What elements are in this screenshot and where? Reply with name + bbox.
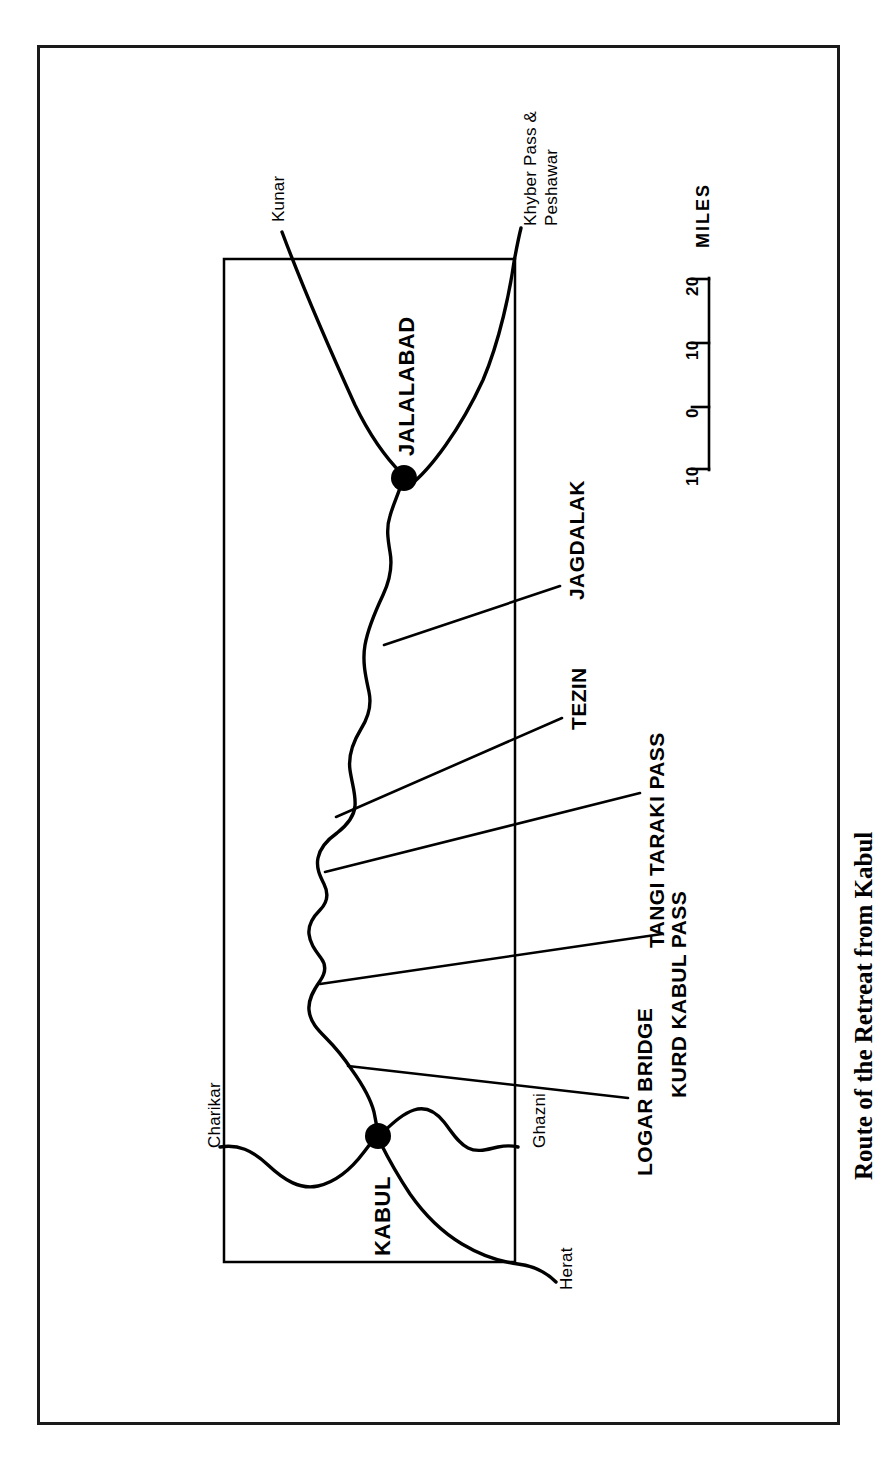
scale-unit-label: MILES (694, 183, 712, 248)
scale-label-0: 0 (684, 408, 701, 418)
figure-caption: Route of the Retreat from Kabul (850, 832, 878, 1180)
label-kunar: Kunar (270, 176, 287, 222)
label-feature-jagdalak: JAGDALAK (566, 480, 587, 600)
label-feature-tezin: TEZIN (568, 667, 589, 730)
label-khyber-pass-line2: Peshawar (541, 111, 562, 226)
scale-label-20: 20 (684, 276, 701, 296)
label-feature-logar-bridge: LOGAR BRIDGE (634, 1008, 655, 1176)
outer-frame-border (37, 45, 840, 1425)
scale-label-10-lower: 10 (684, 466, 701, 486)
label-feature-kurd-kabul-pass: KURD KABUL PASS (668, 891, 689, 1098)
figure-caption-clip: Route of the Retreat from Kabul (846, 0, 879, 1460)
label-city-jalalabad: JALALABAD (396, 316, 418, 456)
label-herat: Herat (558, 1247, 575, 1290)
label-khyber-pass-peshawar: Khyber Pass & Peshawar (520, 111, 563, 226)
label-khyber-pass-line1: Khyber Pass & (520, 111, 541, 226)
figure-page: Kunar Khyber Pass & Peshawar Charikar Gh… (0, 0, 879, 1460)
label-city-kabul: KABUL (372, 1176, 394, 1256)
scale-label-10-upper: 10 (684, 340, 701, 360)
label-feature-tangi-taraki-pass: TANGI TARAKI PASS (646, 732, 667, 948)
label-ghazni: Ghazni (531, 1093, 548, 1148)
label-charikar: Charikar (206, 1082, 223, 1148)
